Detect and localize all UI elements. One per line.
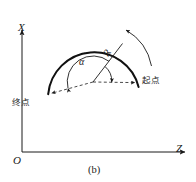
- radius-line-to-end-point: [52, 82, 94, 93]
- end-point-label: 终点: [12, 98, 30, 107]
- angle-alpha-arc: [67, 56, 109, 88]
- angle-alpha-label: α: [79, 57, 84, 67]
- start-point-label: 起点: [142, 76, 160, 85]
- axis-label-origin: O: [13, 155, 21, 166]
- figure-panel-b: X Z O 起点 终点 α R (b): [0, 0, 196, 182]
- radius-line-to-start-point: [93, 82, 135, 83]
- axis-label-x: X: [18, 22, 25, 33]
- angle-offset-arc: [105, 67, 112, 83]
- trajectory-arc-solid: [48, 52, 138, 94]
- trajectory-arc-dashed: [48, 52, 138, 94]
- figure-vector-graphics: [0, 0, 196, 182]
- figure-caption: (b): [88, 165, 100, 176]
- axis-label-z: Z: [176, 143, 182, 154]
- rotation-direction-arrow: [126, 30, 152, 66]
